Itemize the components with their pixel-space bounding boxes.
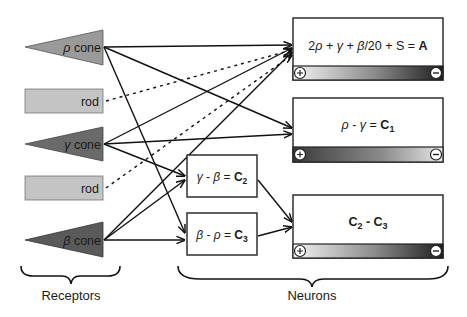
- receptor-beta-cone: β cone: [25, 222, 103, 257]
- minus-icon: [431, 68, 442, 79]
- plus-icon: [295, 246, 306, 257]
- connection-C2-to-C2C3: [258, 180, 292, 222]
- receptor-rod-1: rod: [25, 89, 103, 113]
- svg-text:β cone: β cone: [62, 234, 101, 248]
- neuron-C1-formula: ρ - γ = C1: [341, 118, 395, 134]
- beta-cone-label: cone: [74, 234, 101, 248]
- neuron-A: 2ρ + γ + β/20 + S = A: [293, 18, 443, 80]
- minus-icon: [431, 246, 442, 257]
- neuron-A-gradient-bar: [293, 66, 443, 80]
- color-opponency-diagram: ρ cone rod γ cone rod β cone: [0, 0, 467, 317]
- rho-cone-label: cone: [74, 41, 101, 55]
- connection-rod1-to-A: [106, 50, 292, 101]
- connection-rho-to-A: [104, 45, 292, 47]
- connection-gamma-to-A: [104, 48, 292, 144]
- rod-2-label: rod: [81, 182, 99, 196]
- connection-beta-to-C2: [104, 180, 185, 240]
- connection-rho-to-C1: [104, 47, 292, 128]
- neuron-C3-formula: β - ρ = C3: [195, 228, 248, 244]
- gamma-cone-label: cone: [74, 138, 101, 152]
- rod-1-label: rod: [81, 95, 99, 109]
- receptor-rho-cone: ρ cone: [25, 30, 103, 65]
- neurons-brace: [178, 266, 448, 287]
- connection-C3-to-C2C3: [258, 227, 292, 236]
- neuron-C3: β - ρ = C3: [187, 213, 257, 255]
- neuron-C2-minus-C3: C2 - C3: [293, 195, 443, 258]
- plus-icon: [295, 149, 306, 160]
- neuron-C2C3-gradient-bar: [293, 244, 443, 258]
- receptors-brace: [21, 266, 120, 284]
- connections: [104, 45, 292, 240]
- neuron-C1: ρ - γ = C1: [293, 98, 443, 162]
- connection-gamma-to-C1: [104, 134, 292, 144]
- minus-icon: [431, 149, 442, 160]
- plus-icon: [295, 68, 306, 79]
- receptor-gamma-cone: γ cone: [25, 127, 103, 161]
- neuron-A-formula: 2ρ + γ + β/20 + S = A: [308, 39, 427, 53]
- receptor-rod-2: rod: [25, 176, 103, 200]
- neuron-C1-gradient-bar: [293, 147, 443, 162]
- connection-beta-to-A: [104, 52, 292, 240]
- gamma-symbol: γ: [64, 138, 71, 152]
- beta-symbol: β: [62, 234, 70, 248]
- neurons-group-label: Neurons: [287, 288, 337, 303]
- receptors-group-label: Receptors: [41, 288, 101, 303]
- rho-symbol: ρ: [62, 41, 70, 55]
- svg-text:γ cone: γ cone: [64, 138, 101, 152]
- neuron-C2C3-formula: C2 - C3: [348, 215, 387, 231]
- neuron-C2: γ - β = C2: [187, 155, 257, 197]
- neuron-C2-formula: γ - β = C2: [197, 170, 248, 186]
- svg-text:ρ cone: ρ cone: [62, 41, 101, 55]
